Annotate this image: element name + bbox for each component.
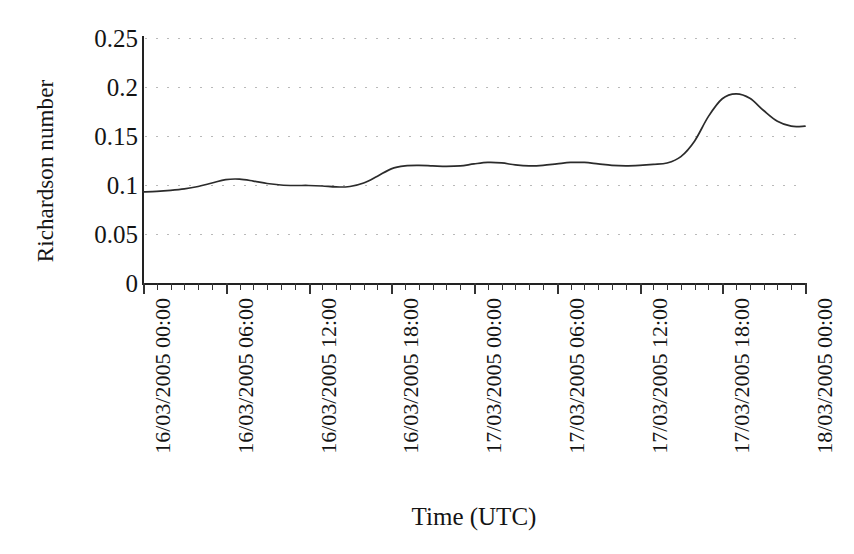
x-axis-tick-label: 16/03/2005 00:00 [152,298,174,518]
x-axis-tick-label: 17/03/2005 00:00 [483,298,505,518]
x-axis-tick-label: 17/03/2005 18:00 [731,298,753,518]
x-axis-tick-labels: 16/03/2005 00:0016/03/2005 06:0016/03/20… [0,0,854,554]
x-axis-tick-label: 18/03/2005 00:00 [814,298,836,518]
x-axis-tick-label: 17/03/2005 12:00 [649,298,671,518]
x-axis-title: Time (UTC) [143,503,805,531]
chart-figure: Richardson number 0.250.20.150.10.050 16… [0,0,854,554]
x-axis-tick-label: 16/03/2005 12:00 [318,298,340,518]
x-axis-tick-label: 17/03/2005 06:00 [566,298,588,518]
x-axis-tick-label: 16/03/2005 18:00 [400,298,422,518]
x-axis-tick-label: 16/03/2005 06:00 [235,298,257,518]
